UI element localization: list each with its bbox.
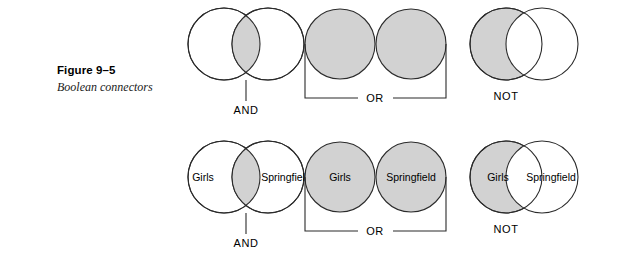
venn-circle-right	[376, 9, 446, 79]
venn-diagram-and: AND	[176, 0, 306, 133]
venn-diagram-not: Girls Springfield NOT	[462, 133, 602, 266]
venn-diagram-or: OR	[300, 0, 452, 133]
operator-label-not: NOT	[493, 223, 518, 235]
set-label-right: Springfield	[386, 171, 436, 183]
operator-label-and: AND	[233, 104, 258, 116]
figure-sheet: Figure 9–5 Boolean connectors AND	[0, 0, 630, 266]
figure-row-1: Figure 9–5 Boolean connectors AND	[0, 0, 630, 133]
operator-label-or: OR	[366, 225, 384, 237]
venn-circle-left	[305, 9, 375, 79]
set-label-left: Girls	[192, 171, 214, 183]
operator-label-or: OR	[366, 92, 384, 104]
figure-description: Boolean connectors	[57, 80, 167, 95]
venn-diagram-and: Girls Springfield AND	[176, 133, 306, 266]
set-label-left: Girls	[329, 171, 351, 183]
figure-caption-1: Figure 9–5 Boolean connectors	[57, 63, 187, 95]
figure-row-2: Figure 9–6 Selection results using Boole…	[0, 133, 630, 266]
venn-diagram-not: NOT	[462, 0, 602, 133]
venn-diagram-or: Girls Springfield OR	[300, 133, 452, 266]
figure-label: Figure 9–5	[57, 63, 187, 77]
operator-label-and: AND	[233, 237, 258, 249]
set-label-right: Springfield	[526, 171, 576, 183]
operator-label-not: NOT	[493, 90, 518, 102]
set-label-left: Girls	[487, 171, 509, 183]
